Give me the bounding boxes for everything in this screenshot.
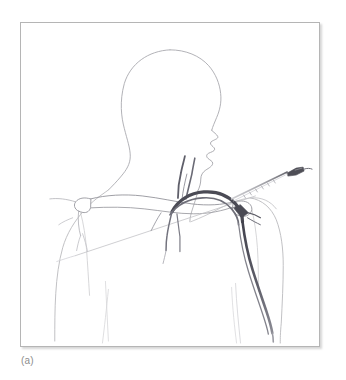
panel-caption: (a)	[21, 355, 34, 367]
acromion	[74, 198, 90, 213]
illustration-background	[21, 23, 319, 346]
figure-root: (a)	[0, 0, 346, 380]
illustration-panel	[20, 22, 320, 347]
anatomy-line-drawing	[21, 23, 319, 346]
